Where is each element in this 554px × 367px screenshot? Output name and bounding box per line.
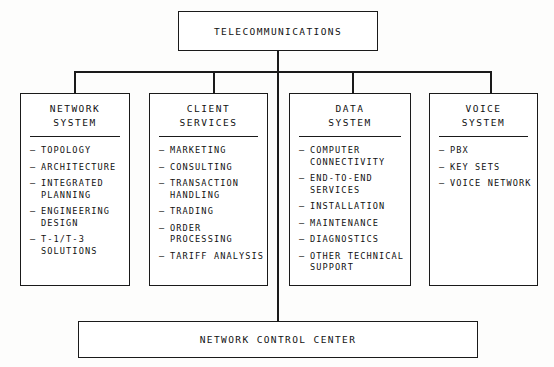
- bullet-dash-icon: –: [159, 223, 165, 235]
- bullet-dash-icon: –: [159, 251, 165, 263]
- list-item: – MARKETING: [159, 145, 267, 157]
- department-title-network-system: NETWORK SYSTEM: [21, 94, 129, 130]
- list-item: – INTEGRATED PLANNING: [30, 178, 129, 201]
- department-box-data-system: DATA SYSTEM – COMPUTER CONNECTIVITY – EN…: [289, 93, 411, 286]
- bullet-dash-icon: –: [30, 162, 36, 174]
- department-item-list-voice-system: – PBX – KEY SETS – VOICE NETWORK: [430, 137, 537, 190]
- department-item-list-client-services: – MARKETING – CONSULTING – TRANSACTION H…: [150, 137, 267, 262]
- bullet-dash-icon: –: [299, 145, 305, 157]
- list-item: – TARIFF ANALYSIS: [159, 251, 267, 263]
- list-item: – ORDER PROCESSING: [159, 223, 267, 246]
- department-title-data-system: DATA SYSTEM: [290, 94, 410, 130]
- list-item: – PBX: [439, 145, 537, 157]
- bullet-dash-icon: –: [299, 234, 305, 246]
- bullet-dash-icon: –: [30, 234, 36, 246]
- list-item: – T-1/T-3 SOLUTIONS: [30, 234, 129, 257]
- list-item: – CONSULTING: [159, 162, 267, 174]
- org-chart-diagram: TELECOMMUNICATIONS NETWORK SYSTEM – TOPO…: [0, 0, 554, 367]
- root-node-label: TELECOMMUNICATIONS: [214, 26, 342, 37]
- footer-node-network-control-center: NETWORK CONTROL CENTER: [78, 321, 478, 358]
- list-item: – TRADING: [159, 206, 267, 218]
- bullet-dash-icon: –: [30, 178, 36, 190]
- bullet-dash-icon: –: [159, 162, 165, 174]
- list-item: – TOPOLOGY: [30, 145, 129, 157]
- bullet-dash-icon: –: [299, 201, 305, 213]
- bullet-dash-icon: –: [439, 145, 445, 157]
- bullet-dash-icon: –: [159, 206, 165, 218]
- department-title-voice-system: VOICE SYSTEM: [430, 94, 537, 130]
- bullet-dash-icon: –: [439, 162, 445, 174]
- list-item: – OTHER TECHNICAL SUPPORT: [299, 251, 410, 274]
- connector-drop-voice-system: [490, 71, 492, 93]
- department-item-list-data-system: – COMPUTER CONNECTIVITY – END-TO-END SER…: [290, 137, 410, 274]
- connector-drop-data-system: [352, 71, 354, 93]
- bullet-dash-icon: –: [159, 145, 165, 157]
- bullet-dash-icon: –: [159, 178, 165, 190]
- connector-central-stem: [277, 51, 279, 321]
- connector-drop-client-services: [213, 71, 215, 93]
- list-item: – VOICE NETWORK: [439, 178, 537, 190]
- bullet-dash-icon: –: [30, 145, 36, 157]
- root-node-telecommunications: TELECOMMUNICATIONS: [178, 11, 378, 51]
- bullet-dash-icon: –: [299, 173, 305, 185]
- list-item: – INSTALLATION: [299, 201, 410, 213]
- bullet-dash-icon: –: [30, 206, 36, 218]
- list-item: – KEY SETS: [439, 162, 537, 174]
- list-item: – MAINTENANCE: [299, 218, 410, 230]
- footer-node-label: NETWORK CONTROL CENTER: [200, 334, 357, 345]
- bullet-dash-icon: –: [439, 178, 445, 190]
- department-title-client-services: CLIENT SERVICES: [150, 94, 267, 130]
- list-item: – ENGINEERING DESIGN: [30, 206, 129, 229]
- list-item: – END-TO-END SERVICES: [299, 173, 410, 196]
- department-box-voice-system: VOICE SYSTEM – PBX – KEY SETS – VOICE NE…: [429, 93, 538, 286]
- bullet-dash-icon: –: [299, 218, 305, 230]
- department-box-network-system: NETWORK SYSTEM – TOPOLOGY – ARCHITECTURE…: [20, 93, 130, 286]
- department-item-list-network-system: – TOPOLOGY – ARCHITECTURE – INTEGRATED P…: [21, 137, 129, 257]
- list-item: – TRANSACTION HANDLING: [159, 178, 267, 201]
- list-item: – ARCHITECTURE: [30, 162, 129, 174]
- department-box-client-services: CLIENT SERVICES – MARKETING – CONSULTING…: [149, 93, 268, 286]
- connector-drop-network-system: [74, 71, 76, 93]
- connector-horizontal-bus: [74, 71, 491, 73]
- bullet-dash-icon: –: [299, 251, 305, 263]
- list-item: – COMPUTER CONNECTIVITY: [299, 145, 410, 168]
- list-item: – DIAGNOSTICS: [299, 234, 410, 246]
